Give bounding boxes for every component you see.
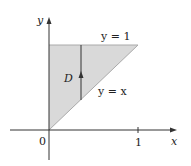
x-axis-label: x	[171, 135, 178, 148]
double-integral-region-diagram: y x 0 1 y = 1 y = x D	[0, 0, 191, 166]
origin-label: 0	[39, 135, 46, 148]
diagonal-boundary-label: y = x	[97, 85, 127, 98]
x-axis-arrow-icon	[170, 128, 177, 133]
x-tick-label-1: 1	[135, 136, 142, 149]
region-label: D	[63, 72, 73, 85]
top-boundary-label: y = 1	[100, 30, 130, 43]
y-axis-arrow-icon	[47, 17, 52, 24]
y-axis-label: y	[36, 14, 44, 27]
